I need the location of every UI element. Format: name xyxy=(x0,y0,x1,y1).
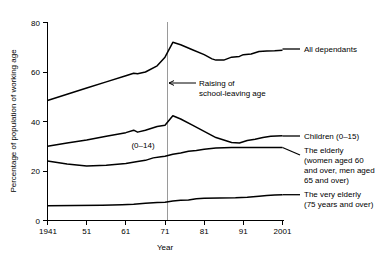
annotation-arrow-icon xyxy=(169,81,196,86)
y-tick-label-0: 0 xyxy=(36,217,41,226)
annotation-children-age-range: (0–14) xyxy=(131,141,154,150)
x-tick-label-1971: 71 xyxy=(161,227,170,236)
x-tick-label-1981: 81 xyxy=(200,227,209,236)
x-tick-label-1961: 61 xyxy=(121,227,130,236)
series-label-the-elderly-line-1: The elderly xyxy=(304,146,344,155)
series-label-the-elderly: The elderly (women aged 60 and over, men… xyxy=(304,146,375,185)
y-tick-label-60: 60 xyxy=(31,68,40,77)
annotation-school-leaving-age-line-1: Raising of xyxy=(199,79,235,88)
series-label-the-elderly-line-2: (women aged 60 xyxy=(304,156,364,165)
line-chart: Percentage of population of working age … xyxy=(0,0,380,265)
x-axis-title: Year xyxy=(157,243,174,252)
y-tick-label-40: 40 xyxy=(31,118,40,127)
series-label-all-dependants: All dependants xyxy=(304,45,357,54)
series-label-the-elderly-line-4: 65 and over) xyxy=(304,176,349,185)
x-axis-ticks: 1941 51 61 71 81 91 2001 xyxy=(39,221,292,237)
x-tick-label-1991: 91 xyxy=(239,227,248,236)
series-label-the-very-elderly: The very elderly (75 years and over) xyxy=(304,190,374,209)
annotation-school-leaving-age-line-2: school-leaving age xyxy=(199,89,266,98)
x-tick-label-2001: 2001 xyxy=(274,227,292,236)
series-label-the-very-elderly-line-1: The very elderly xyxy=(304,190,361,199)
y-axis-title: Percentage of population of working age xyxy=(9,49,18,193)
series-label-the-elderly-line-3: and over, men aged xyxy=(304,166,375,175)
y-tick-label-20: 20 xyxy=(31,167,40,176)
series-label-children: Children (0–15) xyxy=(304,132,359,141)
chart-container: Percentage of population of working age … xyxy=(0,0,380,265)
x-tick-label-1951: 51 xyxy=(82,227,91,236)
series-label-the-very-elderly-line-2: (75 years and over) xyxy=(304,200,374,209)
annotation-school-leaving-age: Raising of school-leaving age xyxy=(169,79,266,98)
series-line-children xyxy=(48,116,283,146)
series-line-the-very-elderly xyxy=(48,195,283,206)
x-tick-label-1941: 1941 xyxy=(39,227,57,236)
y-axis-ticks: 80 60 40 20 0 xyxy=(31,19,47,226)
y-tick-label-80: 80 xyxy=(31,19,40,28)
series-line-the-elderly xyxy=(48,147,283,166)
leader-line-the-elderly xyxy=(283,148,301,156)
